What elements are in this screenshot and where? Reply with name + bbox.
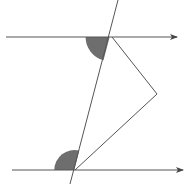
top-shaded-angle <box>86 37 110 60</box>
bottom-shaded-angle <box>54 150 79 170</box>
zigzag-segment <box>75 37 157 170</box>
transversal-line <box>70 0 118 184</box>
parallel-lines-diagram <box>0 0 187 196</box>
